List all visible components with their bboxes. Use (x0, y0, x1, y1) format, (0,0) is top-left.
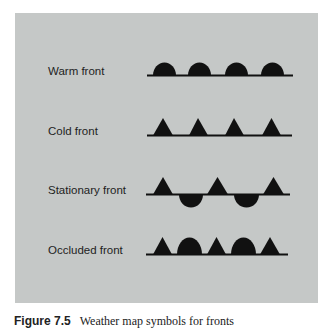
stationary-front-symbol (146, 177, 290, 208)
caption-number: Figure 7.5 (14, 314, 71, 328)
warm-front-symbol (147, 63, 293, 77)
occluded-front-symbol (146, 237, 288, 256)
caption-text: Weather map symbols for fronts (80, 314, 234, 328)
cold-front-symbol (147, 118, 292, 137)
figure-caption: Figure 7.5 Weather map symbols for front… (14, 314, 234, 329)
